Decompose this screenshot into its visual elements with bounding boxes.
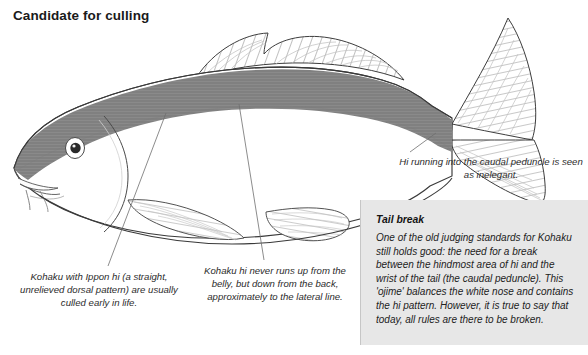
tail-break-heading: Tail break bbox=[376, 214, 574, 225]
tail-break-panel: Tail break One of the old judging standa… bbox=[360, 200, 588, 345]
eye bbox=[66, 138, 85, 159]
figure-page: Candidate for culling bbox=[0, 0, 588, 355]
caption-caudal-peduncle: Hi running into the caudal peduncle is s… bbox=[396, 155, 586, 181]
tail-break-body: One of the old judging standards for Koh… bbox=[376, 231, 574, 326]
caption-ippon-hi: Kohaku with Ippon hi (a straight, unreli… bbox=[8, 270, 190, 310]
pelvic-fin bbox=[266, 208, 349, 241]
caption-lateral-line: Kohaku hi never runs up from the belly, … bbox=[196, 264, 354, 304]
